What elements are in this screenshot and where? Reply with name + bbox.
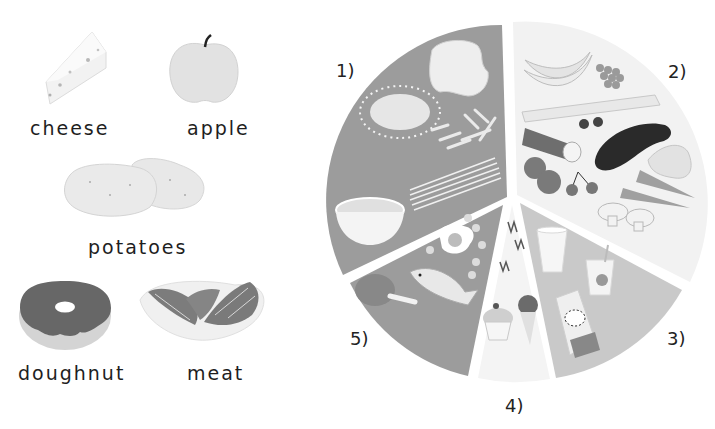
label-potatoes: potatoes: [88, 236, 187, 258]
label-meat: meat: [187, 362, 244, 384]
label-doughnut: doughnut: [18, 362, 125, 384]
segment-label-5: 5): [350, 328, 368, 349]
bread-icon: [430, 40, 489, 96]
doughnut-icon: [19, 281, 111, 350]
segment-label-3: 3): [667, 328, 685, 349]
potatoes-icon: [65, 159, 204, 217]
cheese-icon: [46, 32, 106, 104]
segment-label-2: 2): [668, 61, 686, 82]
label-apple: apple: [187, 117, 250, 139]
segment-label-4: 4): [505, 395, 523, 416]
segment-label-1: 1): [336, 60, 354, 81]
label-cheese: cheese: [30, 117, 109, 139]
meat-icon: [140, 281, 264, 340]
apple-icon: [170, 35, 238, 102]
food-wheel: [326, 22, 708, 383]
